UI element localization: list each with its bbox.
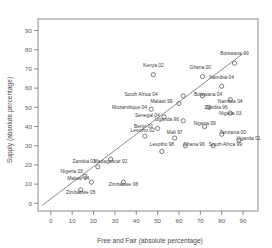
data-point-label: Zimbabwe 96 — [109, 182, 139, 187]
data-point-label: Madagascar 02 — [94, 159, 128, 164]
x-tick-label: 70 — [197, 217, 204, 224]
x-tick-label: 90 — [240, 217, 247, 224]
data-point-marker — [181, 94, 185, 98]
data-point-label: Ghana 96 — [183, 142, 205, 147]
scatter-plot-figure: 0102030405060708090 0102030405060708090 … — [0, 0, 272, 248]
data-point-label: Mali 97 — [167, 130, 183, 135]
x-tick-label: 60 — [176, 217, 183, 224]
x-tick-label: 40 — [133, 217, 140, 224]
data-point-marker — [232, 61, 236, 65]
y-tick-label: 30 — [25, 142, 32, 149]
data-point-label: Zambia 03 — [73, 159, 96, 164]
data-points — [79, 61, 241, 192]
data-point-marker — [181, 119, 185, 123]
y-tick-label: 90 — [25, 27, 32, 34]
data-point-marker — [200, 75, 204, 79]
data-point-label: Uganda 96 — [155, 117, 179, 122]
data-point-label: Namibia 04 — [218, 99, 243, 104]
data-point-label: South Africa 04 — [124, 92, 157, 97]
x-axis-ticks: 0102030405060708090 — [49, 211, 247, 224]
x-tick-label: 10 — [69, 217, 76, 224]
x-tick-label: 50 — [154, 217, 161, 224]
data-point-marker — [173, 136, 177, 140]
data-point-label: Nigeria 03 — [61, 169, 84, 174]
x-tick-label: 0 — [49, 217, 53, 224]
data-point-label: Lesotho 02 — [131, 128, 155, 133]
data-point-label: Namibia 04 — [209, 75, 234, 80]
data-point-marker — [149, 107, 153, 111]
data-point-label: Zambia 96 — [205, 105, 228, 110]
y-tick-label: 40 — [25, 123, 32, 130]
data-point-label: Malawi 04 — [67, 176, 89, 181]
x-tick-label: 20 — [90, 217, 97, 224]
y-tick-label: 0 — [29, 200, 33, 207]
data-point-marker — [143, 134, 147, 138]
x-tick-label: 30 — [111, 217, 118, 224]
data-point-label: Ghana 00 — [190, 65, 212, 70]
data-point-marker — [156, 126, 160, 130]
data-point-label: Malawi 99 — [151, 99, 173, 104]
y-tick-label: 10 — [25, 180, 32, 187]
data-point-label: South Africa 99 — [209, 142, 242, 147]
data-point-label: Lesotho 98 — [150, 142, 174, 147]
data-point-label: Tanzania 00 — [220, 130, 247, 135]
data-point-marker — [89, 180, 93, 184]
data-point-label: Zimbabwe 05 — [66, 190, 96, 195]
x-axis-title: Free and Fair (absolute percentage) — [97, 237, 203, 245]
y-axis-title: Supply (absolute percentage) — [6, 77, 14, 163]
data-point-marker — [151, 73, 155, 77]
data-point-marker — [160, 149, 164, 153]
y-tick-label: 50 — [25, 104, 32, 111]
point-labels: Kenya 02Botswana 99Ghana 00Namibia 04Sou… — [61, 51, 261, 194]
y-tick-label: 80 — [25, 46, 32, 53]
y-tick-label: 70 — [25, 65, 32, 72]
data-point-label: Mozambique 04 — [112, 105, 147, 110]
y-axis-ticks: 0102030405060708090 — [25, 27, 38, 207]
data-point-label: Kenya 02 — [143, 63, 164, 68]
chart-canvas: 0102030405060708090 0102030405060708090 … — [0, 0, 272, 248]
y-tick-label: 60 — [25, 84, 32, 91]
data-point-label: Botswana 99 — [220, 51, 249, 56]
data-point-label: Uganda 01 — [237, 136, 261, 141]
data-point-marker — [96, 165, 100, 169]
data-point-label: Botswana 04 — [194, 92, 223, 97]
y-tick-label: 20 — [25, 161, 32, 168]
data-point-label: Nigeria 03 — [219, 111, 242, 116]
data-point-marker — [220, 84, 224, 88]
x-tick-label: 80 — [218, 217, 225, 224]
data-point-label: Nigeria 99 — [193, 121, 216, 126]
